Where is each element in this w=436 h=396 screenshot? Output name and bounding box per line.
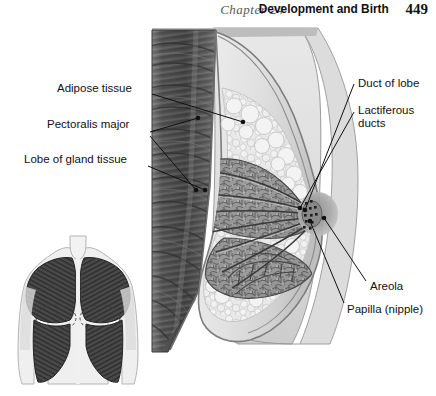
inset-torso-figure: [18, 236, 138, 384]
label-lobe-of-gland-tissue: Lobe of gland tissue: [24, 153, 127, 166]
label-lactiferous-ducts-line1: Lactiferous: [358, 104, 414, 117]
label-papilla-nipple: Papilla (nipple): [347, 303, 423, 316]
inset-sternum: [76, 258, 80, 384]
dot-lactiferous: [298, 206, 303, 211]
dot-adipose: [241, 120, 246, 125]
label-adipose-tissue: Adipose tissue: [57, 82, 132, 95]
label-duct-of-lobe: Duct of lobe: [358, 77, 419, 90]
dot-duct: [303, 208, 308, 213]
dot-areola: [322, 216, 327, 221]
dot-papilla: [308, 219, 313, 224]
label-areola: Areola: [370, 280, 403, 293]
dot-pectoralis: [196, 116, 201, 121]
dot-lobe: [203, 188, 208, 193]
label-lactiferous-ducts: Lactiferous ducts: [358, 104, 414, 130]
label-lactiferous-ducts-line2: ducts: [358, 117, 414, 130]
dot-pectoralis2: [194, 188, 199, 193]
breast-anatomy-figure: [0, 0, 436, 396]
label-pectoralis-major: Pectoralis major: [47, 118, 129, 131]
sagittal-section-illustration: [150, 28, 358, 358]
